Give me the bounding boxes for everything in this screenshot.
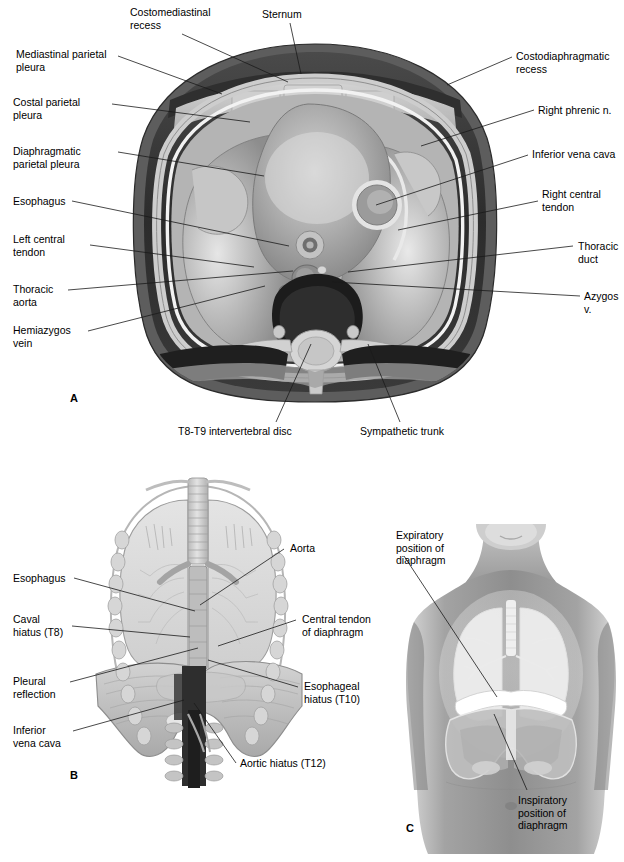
label-costal-parietal-pleura: Costal parietal pleura (13, 96, 117, 121)
label-sympathetic-trunk: Sympathetic trunk (360, 425, 490, 438)
label-expiratory-position-of-diaphragm: Expiratory position of diaphragm (396, 529, 474, 567)
panel-a-illustration (132, 42, 498, 404)
label-left-central-tendon: Left central tendon (13, 233, 99, 258)
label-pleural-reflection: Pleural reflection (13, 675, 91, 700)
label-hemiazygos-vein: Hemiazygos vein (13, 324, 95, 349)
label-inferior-vena-cava-b: Inferior vena cava (13, 724, 91, 749)
label-inspiratory-position-of-diaphragm: Inspiratory position of diaphragm (518, 794, 604, 832)
label-right-phrenic-nerve: Right phrenic n. (538, 104, 624, 117)
label-thoracic-duct: Thoracic duct (578, 240, 624, 265)
panel-letter-b: B (70, 769, 78, 781)
panel-letter-c: C (406, 822, 414, 834)
label-esophageal-hiatus: Esophageal hiatus (T10) (304, 680, 394, 705)
panel-b-illustration (88, 470, 308, 790)
panel-letter-a: A (70, 392, 78, 404)
label-diaphragmatic-parietal-pleura: Diaphragmatic parietal pleura (13, 145, 125, 170)
label-esophagus-a: Esophagus (13, 195, 99, 208)
label-costodiaphragmatic-recess: Costodiaphragmatic recess (516, 50, 622, 75)
label-inferior-vena-cava-a: Inferior vena cava (532, 148, 624, 161)
label-esophagus-b: Esophagus (13, 572, 93, 585)
figure-page: Costomediastinal recess Sternum Costodia… (0, 0, 624, 862)
label-mediastinal-parietal-pleura: Mediastinal parietal pleura (16, 48, 126, 73)
label-right-central-tendon: Right central tendon (542, 188, 624, 213)
label-caval-hiatus: Caval hiatus (T8) (13, 613, 95, 638)
label-thoracic-aorta: Thoracic aorta (13, 283, 91, 308)
label-azygos-vein: Azygos v. (584, 290, 624, 315)
label-t8-t9-intervertebral-disc: T8-T9 intervertebral disc (178, 425, 358, 438)
label-costomediastinal-recess: Costomediastinal recess (130, 6, 250, 31)
label-aorta: Aorta (290, 542, 350, 555)
label-aortic-hiatus: Aortic hiatus (T12) (240, 757, 366, 770)
label-sternum: Sternum (262, 8, 342, 21)
label-central-tendon-of-diaphragm: Central tendon of diaphragm (302, 613, 398, 638)
